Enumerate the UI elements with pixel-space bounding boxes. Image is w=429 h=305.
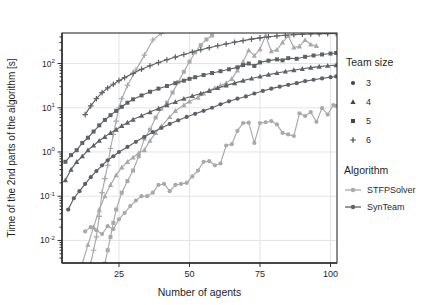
stfpsolver-line-marker-icon [344, 186, 361, 194]
y-tick-label: 100 [42, 145, 55, 157]
legend-item-label: 3 [366, 78, 371, 88]
legend-item-label: STFPSolver [367, 185, 416, 195]
chart-canvas: 10-210-1100101102255075100Number of agen… [0, 0, 429, 305]
legend-item-team-5: 5 [346, 111, 393, 130]
legend-item-label: 4 [366, 97, 371, 107]
legend-item-synteam: SynTeam [344, 198, 416, 215]
legend-algorithm: Algorithm STFPSolver SynTeam [344, 164, 416, 215]
legend-item-stfpsolver: STFPSolver [344, 181, 416, 198]
legend-item-team-6: 6 [346, 130, 393, 149]
y-tick-label: 102 [42, 57, 55, 69]
plus-marker-icon [346, 135, 360, 145]
y-tick-label: 10-1 [40, 190, 56, 202]
x-tick-label: 75 [255, 269, 265, 279]
x-tick-label: 50 [184, 269, 194, 279]
square-marker-icon [346, 116, 360, 126]
y-tick-label: 101 [42, 101, 55, 113]
circle-marker-icon [346, 78, 360, 88]
legend-item-label: 5 [366, 116, 371, 126]
x-tick-label: 100 [323, 269, 338, 279]
legend-item-team-4: 4 [346, 92, 393, 111]
x-tick-label: 25 [114, 269, 124, 279]
legend-team-size-title: Team size [346, 56, 393, 68]
y-tick-label: 10-2 [40, 234, 56, 246]
figure: 10-210-1100101102255075100Number of agen… [0, 0, 429, 305]
x-axis-title: Number of agents [158, 286, 241, 298]
triangle-marker-icon [346, 97, 360, 107]
legend-item-label: 6 [366, 135, 371, 145]
legend-algorithm-title: Algorithm [344, 164, 416, 176]
legend-item-label: SynTeam [367, 202, 405, 212]
y-axis-title: Time of the 2nd parts of the algorithm [… [6, 58, 17, 237]
legend-team-size: Team size 3 4 5 6 [346, 56, 393, 149]
legend-item-team-3: 3 [346, 73, 393, 92]
synteam-line-marker-icon [344, 203, 361, 211]
